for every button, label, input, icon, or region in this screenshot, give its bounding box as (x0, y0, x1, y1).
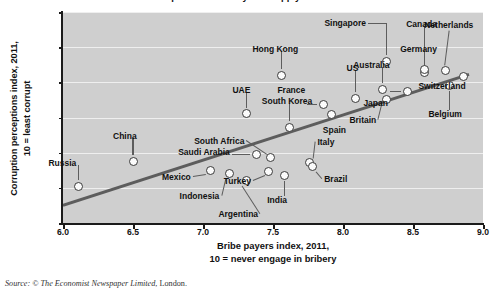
leader-line (232, 154, 250, 155)
point-label-britain: Britain (349, 116, 376, 125)
point-label-france: France (277, 86, 305, 95)
point-label-belgium: Belgium (428, 110, 462, 119)
data-point-switzerland[interactable] (459, 72, 468, 81)
point-label-germany: Germany (400, 45, 437, 54)
x-tick-mark (343, 225, 345, 229)
leader-line (390, 91, 401, 92)
point-label-brazil: Brazil (324, 175, 347, 184)
x-tick-label: 9.0 (463, 227, 492, 237)
data-point-south-korea[interactable] (285, 123, 294, 132)
point-label-mexico: Mexico (162, 173, 191, 182)
y-axis-title: Corruption perceptions index, 2011, 10 =… (8, 5, 33, 233)
data-point-saudi-arabia[interactable] (252, 150, 261, 159)
chart-figure: Corruption and bribery: the supply and d… (0, 0, 492, 297)
y-tick-mark (59, 47, 63, 49)
source-publication: The Economist Newspaper Limited (40, 279, 155, 288)
point-label-saudi-arabia: Saudi Arabia (178, 148, 230, 157)
data-point-mexico[interactable] (206, 166, 215, 175)
leader-line (386, 23, 387, 55)
point-label-russia: Russia (48, 159, 76, 168)
data-point-france[interactable] (319, 100, 328, 109)
point-label-spain: Spain (323, 126, 346, 135)
point-label-italy: Italy (317, 138, 334, 147)
gridline (63, 188, 483, 189)
leader-line (355, 70, 356, 92)
data-point-japan[interactable] (403, 87, 412, 96)
leader-line (284, 181, 285, 196)
data-point-canada[interactable] (420, 65, 429, 74)
data-point-netherlands[interactable] (441, 66, 450, 75)
y-tick-mark (59, 153, 63, 155)
data-point-china[interactable] (129, 157, 138, 166)
point-label-uae: UAE (232, 86, 250, 95)
data-point-turkey[interactable] (264, 167, 273, 176)
y-tick-mark (59, 188, 63, 190)
x-tick-mark (483, 225, 485, 229)
gridline (63, 12, 483, 13)
source-suffix: , London. (155, 279, 187, 288)
data-point-australia[interactable] (378, 85, 387, 94)
y-tick-mark (59, 82, 63, 84)
y-tick-mark (59, 118, 63, 120)
leader-line (78, 165, 79, 180)
point-label-indonesia: Indonesia (180, 192, 220, 201)
x-tick-mark (133, 225, 135, 229)
point-label-netherlands: Netherlands (424, 21, 473, 30)
point-label-australia: Australia (353, 61, 389, 70)
point-label-india: India (267, 196, 287, 205)
x-tick-mark (203, 225, 205, 229)
point-label-hong-kong: Hong Kong (252, 45, 298, 54)
source-prefix: Source: © (5, 279, 40, 288)
x-tick-mark (413, 225, 415, 229)
data-point-brazil[interactable] (308, 162, 317, 171)
point-label-japan: Japan (363, 99, 388, 108)
data-point-us[interactable] (351, 94, 360, 103)
data-point-south-africa[interactable] (266, 153, 275, 162)
x-axis-title: Bribe payers index, 2011, 10 = never eng… (63, 240, 483, 265)
leader-line (449, 91, 450, 110)
data-point-russia[interactable] (74, 182, 83, 191)
point-label-china: China (113, 132, 137, 141)
point-label-argentina: Argentina (218, 210, 258, 219)
point-label-turkey: Turkey (224, 177, 251, 186)
x-tick-mark (63, 225, 65, 229)
chart-title-clipped: Corruption and bribery: the supply and d… (63, 0, 483, 2)
source-note: Source: © The Economist Newspaper Limite… (5, 279, 187, 288)
x-tick-mark (273, 225, 275, 229)
leader-line (368, 23, 386, 24)
point-label-south-korea: South Korea (262, 97, 313, 106)
point-label-singapore: Singapore (324, 19, 366, 28)
data-point-india[interactable] (280, 171, 289, 180)
y-tick-mark (59, 12, 63, 14)
data-point-hong-kong[interactable] (277, 71, 286, 80)
gridline (63, 118, 483, 119)
point-label-switzerland: Switzerland (418, 82, 465, 91)
point-label-south-africa: South Africa (194, 137, 244, 146)
